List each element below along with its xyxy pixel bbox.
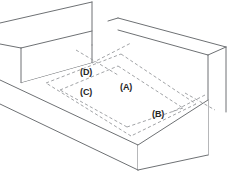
isometric-box-drawing (0, 0, 237, 182)
dashed-extension-back-upper (92, 43, 131, 63)
diagram-canvas: (A) (B) (C) (D) (0, 0, 237, 182)
point-label-c: (C) (80, 88, 92, 97)
point-label-d: (D) (80, 68, 92, 77)
right-wall-top-back-edge-extension (108, 18, 118, 21)
point-label-b: (B) (152, 110, 164, 119)
point-label-a: (A) (120, 83, 132, 92)
